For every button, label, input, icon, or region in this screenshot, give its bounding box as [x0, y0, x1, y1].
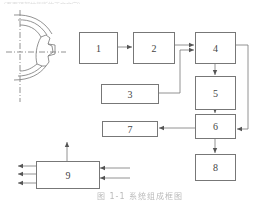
block-7-label: 7 [128, 124, 133, 135]
block-9: 9 [36, 161, 100, 189]
block-1: 1 [79, 32, 118, 64]
block-9-label: 9 [66, 170, 71, 181]
block-8-label: 8 [213, 162, 218, 173]
mechanical-part-sketch [6, 10, 66, 102]
figure-caption: 图 1-1 系统组成框图 [70, 190, 210, 202]
block-1-label: 1 [96, 43, 101, 54]
block-4: 4 [195, 32, 236, 64]
block-8: 8 [195, 154, 236, 181]
block-7: 7 [102, 121, 158, 137]
block-6-label: 6 [213, 121, 218, 132]
block-2: 2 [133, 32, 175, 64]
block-6: 6 [195, 114, 236, 139]
block-5-label: 5 [213, 88, 218, 99]
block-3: 3 [101, 84, 159, 104]
block-5: 5 [195, 76, 236, 110]
block-4-label: 4 [213, 43, 218, 54]
block-3-label: 3 [128, 89, 133, 100]
block-2-label: 2 [152, 43, 157, 54]
